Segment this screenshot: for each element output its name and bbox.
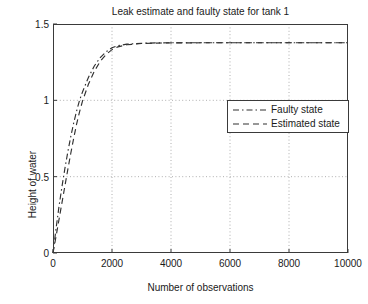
x-tick-label: 4000: [160, 258, 182, 269]
x-tick-label: 2000: [101, 258, 123, 269]
plot-frame: [53, 24, 348, 253]
legend-line-sample-faulty-state: [231, 103, 269, 117]
chart-legend[interactable]: Faulty state Estimated state: [227, 100, 349, 133]
y-axis-tick-labels: 00.511.5: [18, 24, 49, 253]
x-tick-label: 6000: [219, 258, 241, 269]
y-tick-label: 0: [43, 248, 49, 259]
x-tick-label: 10000: [334, 258, 362, 269]
legend-item-faulty-state[interactable]: Faulty state: [231, 103, 347, 117]
legend-label-estimated-state: Estimated state: [271, 117, 340, 131]
x-tick-label: 8000: [278, 258, 300, 269]
legend-line-sample-estimated-state: [231, 117, 269, 131]
y-tick-label: 0.5: [35, 171, 49, 182]
y-tick-label: 1: [43, 95, 49, 106]
legend-item-estimated-state[interactable]: Estimated state: [231, 117, 347, 131]
x-axis-tick-labels: 0200040006000800010000: [53, 258, 348, 272]
plot-area: [53, 24, 348, 253]
legend-label-faulty-state: Faulty state: [271, 103, 323, 117]
figure-canvas: Leak estimate and faulty state for tank …: [0, 0, 368, 304]
chart-title: Leak estimate and faulty state for tank …: [53, 6, 348, 17]
y-tick-label: 1.5: [35, 19, 49, 30]
x-tick-label: 0: [50, 258, 56, 269]
x-axis-label: Number of observations: [53, 282, 348, 293]
